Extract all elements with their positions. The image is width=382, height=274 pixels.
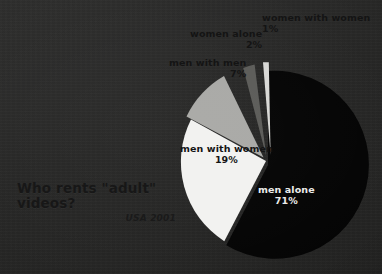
slice-label-women-with-women: women with women 1% [262, 12, 370, 34]
slice-label-women-with-women-name: women with women [262, 12, 370, 23]
slice-label-women-alone-name: women alone [190, 28, 262, 39]
slice-label-men-with-women-name: men with women [180, 143, 273, 154]
title-block: Who rents "adult" videos? USA 2001 [17, 181, 182, 223]
chart-title: Who rents "adult" videos? [17, 181, 182, 211]
slice-label-men-alone-name: men alone [258, 184, 315, 195]
slice-label-women-alone: women alone 2% [190, 28, 262, 50]
chart-canvas: men alone 71% men with women 19% men wit… [0, 0, 382, 274]
slice-label-women-alone-value: 2% [190, 39, 262, 50]
slice-label-men-alone: men alone 71% [258, 184, 315, 206]
slice-label-men-with-men-value: 7% [169, 68, 246, 79]
chart-subtitle: USA 2001 [17, 213, 182, 223]
slice-label-men-with-men-name: men with men [169, 57, 246, 68]
slice-label-men-with-women-value: 19% [180, 154, 273, 165]
slice-label-men-with-women: men with women 19% [180, 143, 273, 165]
slice-label-men-with-men: men with men 7% [169, 57, 246, 79]
slice-label-men-alone-value: 71% [258, 195, 315, 206]
slice-label-women-with-women-value: 1% [262, 23, 370, 34]
